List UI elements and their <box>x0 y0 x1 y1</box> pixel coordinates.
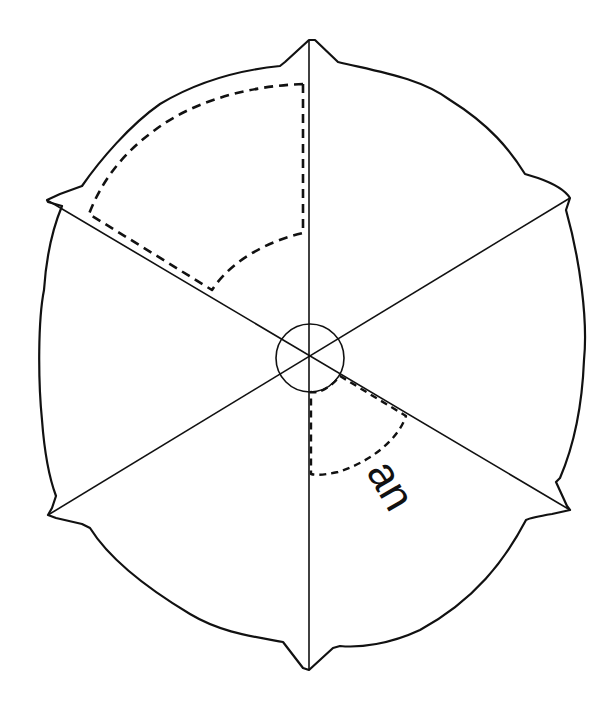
angle-label: an <box>358 452 425 519</box>
umbrella-canopy-diagram: an <box>0 0 614 707</box>
dashed-panel-region <box>89 84 303 290</box>
